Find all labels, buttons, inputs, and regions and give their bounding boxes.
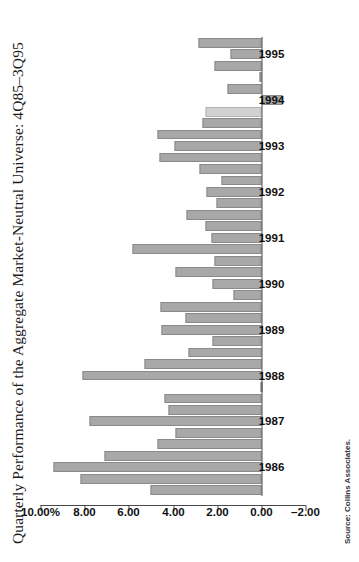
bar-3Q89 — [185, 313, 261, 323]
source-note: Source: Collins Associates. — [342, 439, 351, 544]
bar-1Q95 — [214, 61, 260, 71]
bar-1Q94 — [205, 107, 261, 117]
value-tick-label: 8.00 — [73, 506, 95, 518]
bar-1Q92 — [216, 198, 261, 208]
bar-3Q86 — [104, 451, 261, 461]
year-tick-label-1988: 1988 — [258, 370, 284, 382]
year-tick-label-1995: 1995 — [258, 48, 284, 60]
bar-3Q94 — [227, 84, 261, 94]
bar-1Q86 — [80, 474, 261, 484]
bar-2Q90 — [212, 279, 261, 289]
value-tick-label: 2.00 — [205, 506, 227, 518]
bar-4Q88 — [188, 348, 261, 358]
bar-2Q93 — [174, 141, 261, 151]
bar-3Q92 — [221, 176, 261, 186]
bar-4Q91 — [186, 210, 261, 220]
bar-4Q87 — [164, 394, 261, 404]
year-tick-label-1989: 1989 — [258, 324, 284, 336]
value-tick-label: 0.00 — [250, 506, 272, 518]
bar-1Q93 — [159, 153, 261, 163]
year-tick-label-1991: 1991 — [258, 232, 284, 244]
bar-4Q89 — [160, 302, 260, 312]
year-tick-label-1986: 1986 — [258, 461, 284, 473]
bar-4Q86 — [157, 439, 261, 449]
bar-2Q86 — [53, 462, 261, 472]
value-tick-label: 4.00 — [161, 506, 183, 518]
chart-figure-rotator: Quarterly Performance of the Aggregate M… — [0, 0, 359, 562]
bar-1Q91 — [132, 244, 261, 254]
bar-2Q87 — [89, 417, 261, 427]
year-tick-label-1992: 1992 — [258, 186, 284, 198]
bar-1Q87 — [175, 428, 261, 438]
bar-4Q85 — [150, 485, 260, 495]
chart-title: Quarterly Performance of the Aggregate M… — [8, 0, 26, 562]
bar-2Q88 — [82, 371, 261, 381]
year-tick-label-1994: 1994 — [258, 94, 284, 106]
year-tick-label-1990: 1990 — [258, 278, 284, 290]
year-tick-label-1993: 1993 — [258, 140, 284, 152]
year-tick-label-1987: 1987 — [258, 415, 284, 427]
bar-3Q91 — [205, 221, 261, 231]
bar-3Q90 — [175, 267, 261, 277]
value-tick-label: 6.00 — [117, 506, 139, 518]
bar-2Q92 — [206, 187, 261, 197]
bar-4Q93 — [202, 118, 261, 128]
value-tick-label: 10.00% — [20, 506, 59, 518]
chart-figure: Quarterly Performance of the Aggregate M… — [0, 0, 359, 562]
bar-2Q89 — [161, 325, 260, 335]
bar-1Q89 — [212, 336, 261, 346]
bar-3Q87 — [168, 405, 261, 415]
bar-3Q88 — [144, 359, 261, 369]
bar-4Q90 — [214, 256, 260, 266]
value-tick-label: –2.00 — [291, 506, 320, 518]
bar-1Q90 — [233, 290, 261, 300]
bar-3Q95 — [198, 38, 261, 48]
bar-2Q91 — [211, 233, 261, 243]
bar-3Q93 — [157, 130, 261, 140]
bar-2Q95 — [230, 49, 261, 59]
bar-4Q92 — [199, 164, 261, 174]
